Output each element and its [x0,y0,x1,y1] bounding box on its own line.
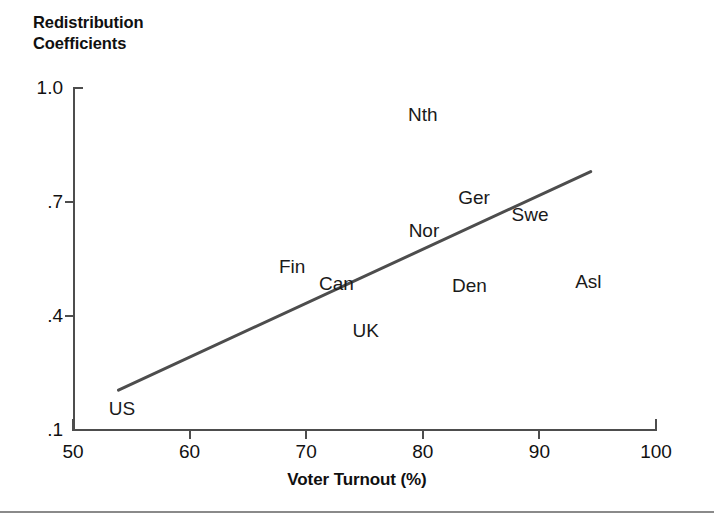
data-point-label-swe: Swe [512,204,549,226]
bottom-divider [0,511,714,513]
x-tick-mark [305,429,307,439]
data-point-label-nor: Nor [409,220,440,242]
y-tick-label: 1.0 [37,77,63,99]
data-point-label-asl: Asl [575,271,601,293]
x-tick-mark [422,429,424,439]
y-tick-label: .4 [47,305,63,327]
x-tick-label: 100 [640,441,672,463]
data-point-label-nth: Nth [408,104,438,126]
data-point-label-fin: Fin [279,256,305,278]
x-tick-label: 70 [296,441,317,463]
x-tick-label: 50 [62,441,83,463]
data-point-label-ger: Ger [458,187,490,209]
data-point-label-den: Den [452,275,487,297]
x-axis-title: Voter Turnout (%) [0,470,714,490]
y-axis-title: Redistribution Coefficients [33,12,143,54]
x-tick-label: 90 [529,441,550,463]
y-tick-label: .7 [47,191,63,213]
data-point-label-can: Can [319,273,354,295]
trend-line-svg [73,88,656,430]
x-tick-label: 80 [412,441,433,463]
x-tick-label: 60 [179,441,200,463]
x-tick-mark [538,429,540,439]
x-tick-mark [189,429,191,439]
chart-figure: Redistribution Coefficients 1.0.7.4.1 50… [0,0,714,528]
data-point-label-us: US [109,398,135,420]
y-tick-label: .1 [47,419,63,441]
data-point-label-uk: UK [352,320,378,342]
plot-area: 1.0.7.4.1 5060708090100 NthGerSweNorFinC… [73,88,656,430]
